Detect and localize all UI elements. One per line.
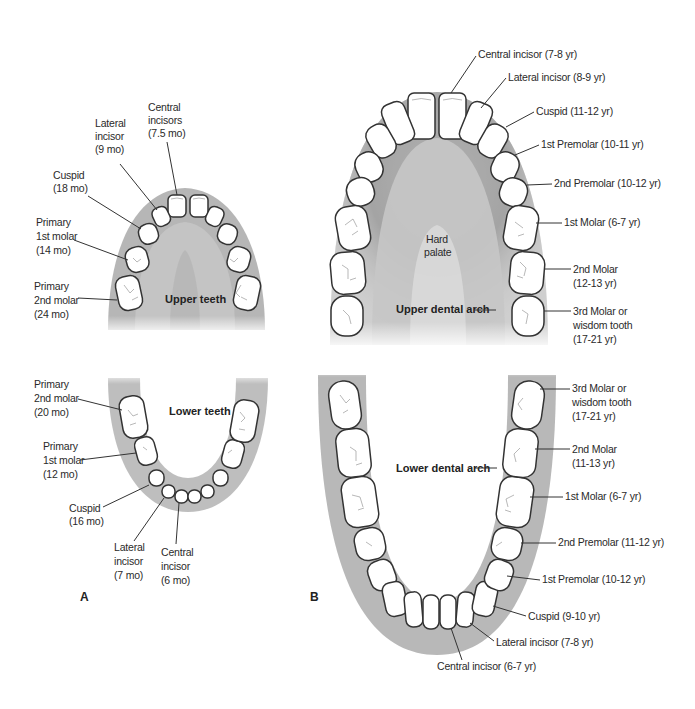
label-b-lower-molar2: 2nd Molar (11-13 yr) [572,443,620,469]
tooth-a-lower-lateral-left [162,485,175,498]
tooth-a-lower-cuspid-right [213,470,228,486]
tooth-b-upper-molar3-right [512,296,544,336]
label-a-upper-molar1: Primary 1st molar (14 mo) [36,216,80,256]
label-a-lower-lateral: Lateral incisor (7 mo) [114,541,147,581]
tooth-b-lower-central-right [440,595,456,629]
panel-a-upper-arch: Upper teeth Central incisors (7.5 mo) La… [34,101,280,335]
tooth-a-lower-lateral-right [201,485,214,498]
tooth-b-upper-molar2-right [508,251,546,296]
leader-a-upper-cuspid [88,196,141,229]
label-b-lower-central: Central incisor (6-7 yr) [437,660,536,672]
panel-label-b: B [310,590,319,604]
leader-a-upper-lateral [120,164,157,210]
leader-b-upper-lateral [481,78,506,108]
dental-eruption-diagram: Upper teeth Central incisors (7.5 mo) La… [0,0,695,709]
hard-palate-label: Hard palate [424,233,452,258]
panel-b-lower-arch: Lower dental arch 3rd Molar or wisdom to… [310,365,664,672]
label-a-lower-central: Central incisor (6 mo) [161,546,196,586]
label-a-upper-lateral: Lateral incisor (9 mo) [95,117,128,155]
panel-a-lower-arch: Lower teeth Primary 2nd molar (20 mo) Pr… [34,372,280,586]
lower-teeth-title: Lower teeth [169,405,231,417]
label-b-lower-premolar2: 2nd Premolar (11-12 yr) [558,536,664,548]
label-a-lower-cuspid: Cuspid (16 mo) [69,502,104,527]
label-b-upper-premolar2: 2nd Premolar (10-12 yr) [554,177,661,189]
label-a-upper-cuspid: Cuspid (18 mo) [53,169,88,194]
leader-b-upper-premolar1 [515,145,539,155]
label-b-lower-lateral: Lateral incisor (7-8 yr) [496,636,593,648]
label-a-lower-molar2: Primary 2nd molar (20 mo) [34,378,82,418]
panel-b-upper-arch: Hard palate Upper dental arch Central in… [320,48,661,350]
tooth-b-lower-molar1-left [340,475,381,529]
label-b-upper-cuspid: Cuspid (11-12 yr) [536,105,613,117]
tooth-b-lower-molar1-right [495,475,536,529]
label-a-upper-central: Central incisors (7.5 mo) [148,101,186,139]
leader-b-upper-cuspid [506,112,534,127]
panel-label-a: A [80,590,89,604]
upper-dental-arch-label: Upper dental arch [396,303,490,315]
label-b-upper-central: Central incisor (7-8 yr) [478,48,577,60]
leader-b-upper-central [451,56,476,93]
leader-a-lower-cuspid [103,485,149,507]
label-a-upper-molar2: Primary 2nd molar (24 mo) [34,280,82,320]
label-b-lower-premolar1: 1st Premolar (10-12 yr) [542,573,645,585]
label-b-upper-premolar1: 1st Premolar (10-11 yr) [541,138,644,150]
upper-teeth-title: Upper teeth [165,293,226,305]
tooth-b-lower-molar2-right [502,427,540,478]
tooth-b-lower-lateral-left [404,591,424,627]
leader-a-upper-central [167,142,177,195]
tooth-b-lower-central-left [423,595,439,629]
tooth-b-upper-molar3-left [331,296,363,336]
leader-a-lower-lateral [134,498,164,541]
label-b-upper-molar2: 2nd Molar (12-13 yr) [573,263,621,289]
tooth-a-lower-cuspid-left [149,470,164,486]
leader-b-upper-premolar2 [527,184,552,185]
label-b-upper-lateral: Lateral incisor (8-9 yr) [508,71,605,83]
tooth-a-lower-central-left [175,490,188,503]
label-b-lower-cuspid: Cuspid (9-10 yr) [528,610,600,622]
label-b-upper-molar1: 1st Molar (6-7 yr) [564,216,640,228]
label-b-upper-molar3: 3rd Molar or wisdom tooth (17-21 yr) [572,305,635,345]
tooth-b-lower-molar2-left [335,427,373,478]
tooth-a-lower-central-right [188,490,201,503]
label-b-lower-molar1: 1st Molar (6-7 yr) [565,490,641,502]
label-b-lower-molar3: 3rd Molar or wisdom tooth (17-21 yr) [571,382,634,422]
